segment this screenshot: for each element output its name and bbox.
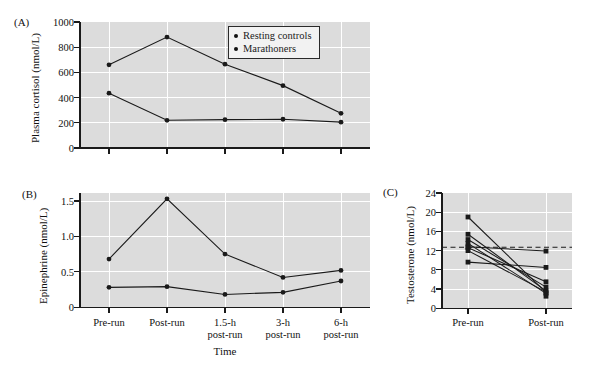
panel-b-svg (0, 180, 380, 375)
subject-line-1 (468, 217, 546, 292)
panel-b-xtick-6h-post-run: 6-h post-run (311, 317, 371, 341)
panel-a: (A) Plasma cortisol (nmol/L) 1000 800 60… (0, 0, 380, 180)
panel-b-xlabel: Time (195, 345, 255, 357)
filled-circle-icon (234, 34, 238, 38)
panel-a-legend: Resting controls Marathoners (228, 26, 320, 59)
xtick-label-text: Post-run (149, 317, 185, 328)
xtick-label-line1: 3-h (276, 317, 290, 328)
panel-c-subject-lines (468, 217, 546, 293)
subject-line-7 (468, 251, 546, 292)
figure-root: (A) Plasma cortisol (nmol/L) 1000 800 60… (0, 0, 593, 375)
legend-item-resting-controls: Resting controls (234, 29, 312, 42)
panel-c-xtick-pre-run: Pre-run (438, 317, 498, 329)
filled-circle-icon (234, 47, 238, 51)
xtick-label-line1: 1.5-h (214, 317, 236, 328)
panel-c: (C) Testosterone (nmol/L) 24 20 16 12 8 … (380, 180, 593, 375)
xtick-label-line2: post-run (266, 329, 301, 340)
legend-item-marathoners: Marathoners (234, 42, 312, 55)
legend-label-marathoners: Marathoners (243, 42, 296, 55)
panel-b-xtick-3h-post-run: 3-h post-run (253, 317, 313, 341)
panel-b-xtick-pre-run: Pre-run (79, 317, 139, 329)
xtick-label-line1: 6-h (334, 317, 348, 328)
legend-label-resting-controls: Resting controls (243, 29, 312, 42)
panel-b-xtick-1_5h-post-run: 1.5-h post-run (195, 317, 255, 341)
xtick-label-text: Pre-run (93, 317, 125, 328)
panel-b-xtick-post-run: Post-run (137, 317, 197, 329)
xtick-label-line2: post-run (208, 329, 243, 340)
panel-a-svg (0, 0, 380, 180)
panel-c-xtick-post-run: Post-run (516, 317, 576, 329)
panel-c-svg (380, 180, 593, 375)
xtick-label-line2: post-run (324, 329, 359, 340)
panel-b: (B) Epinephrine (nmol/L) 1.5 1.0 0.5 0 (0, 180, 380, 375)
